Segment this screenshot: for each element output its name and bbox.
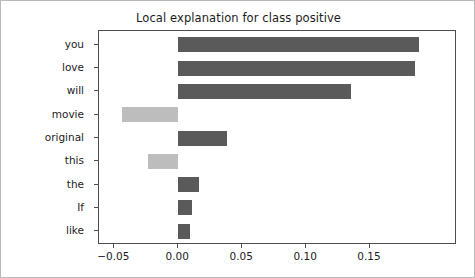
bar-movie <box>122 107 178 122</box>
bar-love <box>178 61 415 76</box>
x-tick-mark <box>241 244 242 248</box>
y-tick-label-this: this <box>65 154 92 166</box>
y-tick-mark <box>94 67 98 68</box>
y-tick-mark <box>94 90 98 91</box>
x-tick-label-2: 0.05 <box>229 250 252 262</box>
y-tick-label-you: you <box>65 38 92 50</box>
x-tick-label-4: 0.15 <box>357 250 380 262</box>
y-tick-label-movie: movie <box>52 108 92 120</box>
bar-will <box>178 84 351 99</box>
x-tick-mark <box>369 244 370 248</box>
x-axis-ticks: −0.050.000.050.100.15 <box>98 244 456 248</box>
bar-the <box>178 177 198 192</box>
y-tick-mark <box>94 230 98 231</box>
y-tick-mark <box>94 160 98 161</box>
x-tick-label-0: −0.05 <box>97 250 129 262</box>
chart-figure: Local explanation for class positive you… <box>0 0 475 278</box>
bar-original <box>178 131 227 146</box>
y-tick-mark <box>94 44 98 45</box>
chart-title: Local explanation for class positive <box>1 11 475 25</box>
bar-like <box>178 224 190 239</box>
plot-area <box>98 30 456 244</box>
y-tick-mark <box>94 184 98 185</box>
bar-this <box>148 154 179 169</box>
x-tick-mark <box>113 244 114 248</box>
y-tick-label-will: will <box>67 84 92 96</box>
y-tick-label-if: If <box>77 201 92 213</box>
x-tick-mark <box>305 244 306 248</box>
bar-if <box>178 200 192 215</box>
bars-layer <box>99 31 455 243</box>
bar-you <box>178 37 418 52</box>
y-axis-tick-labels: youlovewillmovieoriginalthistheIflike <box>1 30 92 244</box>
x-tick-mark <box>177 244 178 248</box>
y-tick-label-original: original <box>45 131 92 143</box>
x-tick-label-1: 0.00 <box>166 250 189 262</box>
y-tick-mark <box>94 114 98 115</box>
y-tick-label-like: like <box>66 224 92 236</box>
y-tick-mark <box>94 137 98 138</box>
x-tick-label-3: 0.10 <box>293 250 316 262</box>
y-tick-label-love: love <box>62 61 92 73</box>
y-tick-mark <box>94 207 98 208</box>
y-tick-label-the: the <box>67 178 92 190</box>
